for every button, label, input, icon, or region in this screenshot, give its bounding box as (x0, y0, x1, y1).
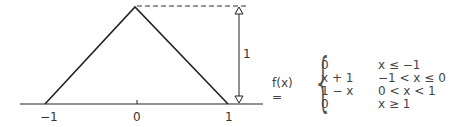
case-expr: 0 (321, 58, 329, 72)
height-label: 1 (243, 47, 251, 61)
case-expr: 0 (321, 97, 329, 111)
case-cond: 0 < x < 1 (378, 84, 436, 98)
tick-label-neg1: −1 (40, 110, 58, 124)
case-cond: −1 < x ≤ 0 (378, 71, 446, 85)
arrow-down-icon (235, 96, 243, 103)
case-row: 1 − x0 < x < 1 (321, 84, 353, 98)
case-cond: x ≥ 1 (378, 97, 410, 111)
function-name: f(x) = (272, 76, 293, 104)
arrow-up-icon (235, 7, 243, 14)
case-row: x + 1−1 < x ≤ 0 (321, 71, 353, 85)
tick-label-0: 0 (133, 110, 141, 124)
case-row: 0x ≥ 1 (321, 97, 329, 111)
triangle-function (45, 7, 228, 104)
case-expr: 1 − x (321, 84, 353, 98)
case-cond: x ≤ −1 (378, 58, 420, 72)
tick-label-1: 1 (225, 110, 233, 124)
case-row: 0x ≤ −1 (321, 58, 329, 72)
case-expr: x + 1 (321, 71, 353, 85)
